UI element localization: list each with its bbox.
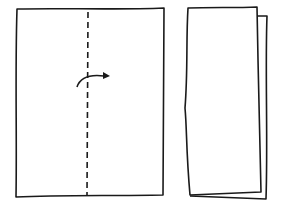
curved-fold-arrow-icon (77, 72, 110, 87)
folding-diagram (0, 0, 288, 210)
back-layer-outline (190, 16, 267, 199)
dashed-fold-line (87, 12, 88, 195)
step-2-folded-sheet (185, 7, 267, 199)
step-1-unfolded-sheet (16, 8, 164, 197)
front-layer-outline (185, 7, 261, 195)
sheet-outline (16, 8, 164, 197)
